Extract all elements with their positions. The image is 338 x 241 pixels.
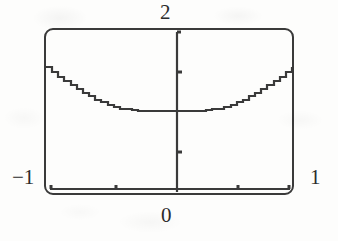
function-curve <box>46 67 292 111</box>
origin-label: 0 <box>161 205 172 226</box>
x-axis-max-label: 1 <box>310 167 321 188</box>
y-axis-max-label: 2 <box>160 2 171 23</box>
x-axis-group <box>50 185 290 189</box>
plot-screenshot: 2 0 −1 1 <box>0 0 338 241</box>
x-axis-min-label: −1 <box>12 167 34 188</box>
